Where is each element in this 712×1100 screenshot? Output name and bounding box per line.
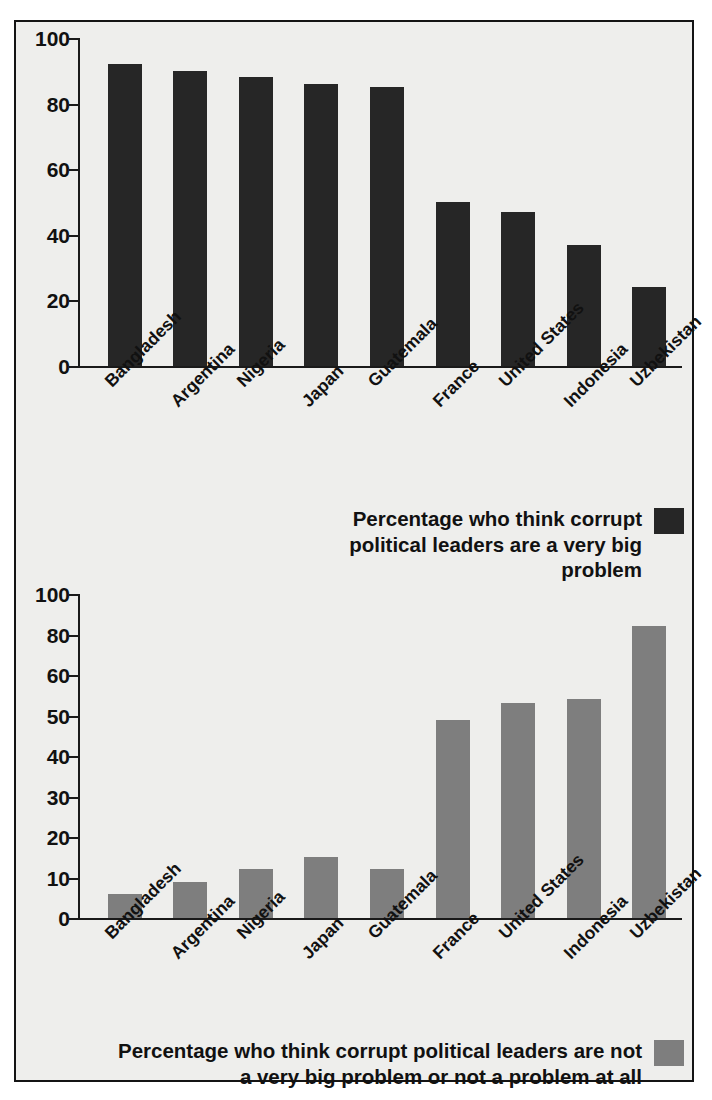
y-tick-label: 60 <box>47 159 70 180</box>
y-tick-mark <box>69 716 80 718</box>
y-tick-mark <box>69 235 80 237</box>
y-tick-label: 40 <box>47 224 70 245</box>
y-tick-mark <box>69 675 80 677</box>
y-tick-mark <box>69 300 80 302</box>
y-tick-mark <box>69 878 80 880</box>
bar-indonesia <box>567 699 601 918</box>
legend-bottom: Percentage who think corrupt political l… <box>34 1038 684 1089</box>
legend-label-bottom: Percentage who think corrupt political l… <box>118 1038 642 1089</box>
bar-france <box>436 202 470 366</box>
y-tick-mark <box>69 918 80 920</box>
bar-japan <box>304 857 338 918</box>
y-tick-mark <box>69 104 80 106</box>
figure-frame: 020406080100 BangladeshArgentinaNigeriaJ… <box>14 20 694 1082</box>
y-tick-label: 100 <box>35 584 70 605</box>
legend-label-top: Percentage who think corrupt political l… <box>308 506 642 583</box>
y-tick-mark <box>69 756 80 758</box>
y-tick-mark <box>69 635 80 637</box>
y-tick-mark <box>69 837 80 839</box>
x-axis-labels-bottom: BangladeshArgentinaNigeriaJapanGuatemala… <box>78 924 682 1042</box>
y-tick-mark <box>69 594 80 596</box>
x-label-japan: Japan <box>299 362 347 410</box>
bar-united-states <box>501 703 535 918</box>
x-axis-labels-top: BangladeshArgentinaNigeriaJapanGuatemala… <box>78 372 682 490</box>
y-tick-mark <box>69 797 80 799</box>
bar-nigeria <box>239 77 273 366</box>
y-tick-label: 20 <box>47 827 70 848</box>
y-tick-label: 20 <box>47 290 70 311</box>
y-tick-label: 50 <box>47 705 70 726</box>
legend-swatch-gray <box>654 1040 684 1066</box>
y-tick-label: 0 <box>58 908 70 929</box>
y-tick-label: 40 <box>47 746 70 767</box>
y-axis-line-top <box>78 38 80 368</box>
chart-panel-bottom: 010203040506080100 BangladeshArgentinaNi… <box>16 578 696 1084</box>
y-tick-mark <box>69 169 80 171</box>
bar-bangladesh <box>108 64 142 366</box>
y-tick-label: 100 <box>35 28 70 49</box>
y-tick-label: 30 <box>47 786 70 807</box>
y-tick-label: 60 <box>47 665 70 686</box>
bar-guatemala <box>370 87 404 366</box>
y-tick-mark <box>69 38 80 40</box>
y-tick-label: 80 <box>47 624 70 645</box>
chart-panel-top: 020406080100 BangladeshArgentinaNigeriaJ… <box>16 22 696 492</box>
bar-japan <box>304 84 338 366</box>
x-label-japan: Japan <box>299 914 347 962</box>
legend-swatch-dark <box>654 508 684 534</box>
y-tick-label: 10 <box>47 867 70 888</box>
y-tick-label: 0 <box>58 356 70 377</box>
y-tick-mark <box>69 366 80 368</box>
y-tick-label: 80 <box>47 93 70 114</box>
bar-uzbekistan <box>632 626 666 918</box>
bar-france <box>436 720 470 918</box>
legend-top: Percentage who think corrupt political l… <box>308 506 684 583</box>
